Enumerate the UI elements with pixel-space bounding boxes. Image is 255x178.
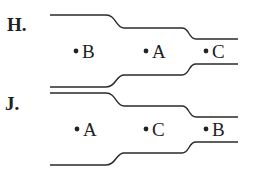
point-label: A [83, 119, 97, 140]
point-label: C [212, 41, 225, 62]
point-dot [74, 49, 79, 54]
point-dot [144, 49, 149, 54]
point-dot [144, 127, 149, 132]
point-h-2: A [144, 41, 166, 62]
point-label: B [212, 119, 225, 140]
point-dot [204, 49, 209, 54]
point-j-3: B [204, 119, 225, 140]
pipe-diagrams: H. B A C J. A C B [0, 0, 255, 178]
point-label: A [152, 41, 166, 62]
diagram-j: J. A C B [5, 93, 238, 165]
point-h-1: B [74, 41, 95, 62]
point-j-1: A [75, 119, 97, 140]
point-label: C [152, 119, 165, 140]
diagram-h: H. B A C [7, 14, 238, 87]
pipe-bottom-wall-j [50, 142, 238, 165]
point-dot [75, 127, 80, 132]
pipe-bottom-wall-h [50, 64, 238, 87]
diagram-label-j: J. [5, 93, 19, 114]
point-h-3: C [204, 41, 225, 62]
pipe-top-wall-j [50, 93, 238, 117]
point-dot [204, 127, 209, 132]
point-label: B [82, 41, 95, 62]
diagram-label-h: H. [7, 14, 27, 35]
pipe-top-wall-h [50, 15, 238, 39]
point-j-2: C [144, 119, 165, 140]
